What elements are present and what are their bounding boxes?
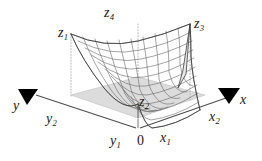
saddle-surface-figure: z1 z2 z3 z4 y x y2 y1 0 x1 x2 xyxy=(0,0,262,161)
label-z3: z3 xyxy=(194,17,204,32)
label-x2-tick: x2 xyxy=(209,110,220,125)
x-axis-arrowhead xyxy=(218,88,240,104)
label-y1-tick: y1 xyxy=(110,134,121,149)
label-y-axis: y xyxy=(13,99,19,113)
y-axis-arrowhead xyxy=(18,89,38,105)
label-x1-tick: x1 xyxy=(160,131,171,146)
label-z4: z4 xyxy=(104,6,114,21)
label-y2-tick: y2 xyxy=(46,112,57,127)
label-z1: z1 xyxy=(58,26,68,41)
figure-canvas xyxy=(0,0,262,161)
label-x-axis: x xyxy=(240,93,246,107)
label-z2: z2 xyxy=(139,95,149,110)
label-origin: 0 xyxy=(137,134,144,148)
